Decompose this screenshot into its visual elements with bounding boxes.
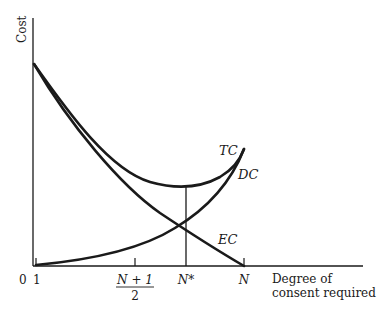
chart-canvas: Cost TC DC EC 0 1 N + 1 2 N* N Degree of… [0,0,382,315]
tc-label: TC [219,143,238,158]
tc-curve [34,64,244,186]
dc-label: DC [237,167,258,182]
x-axis-label-line1: Degree of [272,272,333,286]
n-label: N [238,273,250,287]
origin-label: 0 [19,273,27,287]
ec-label: EC [217,232,237,247]
tick-1-label: 1 [33,273,41,287]
nstar-label: N* [177,273,195,287]
mid-numerator: N + 1 [116,273,153,287]
mid-denominator: 2 [131,289,139,303]
y-axis-label: Cost [15,15,29,43]
x-axis-label-line2: consent required [272,286,376,300]
ec-curve [34,64,244,266]
